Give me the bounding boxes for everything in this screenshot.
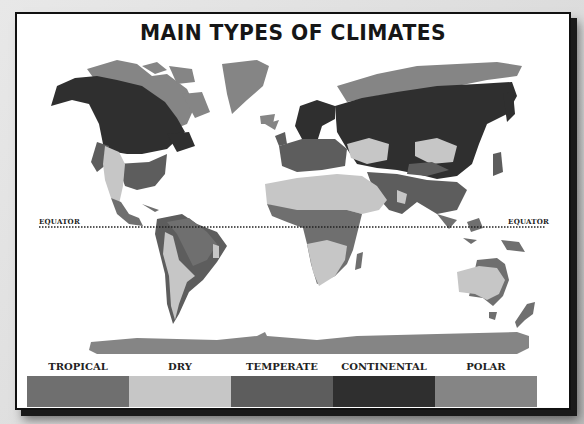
legend-swatch-tropical [27, 376, 129, 407]
legend-swatch-temperate [231, 376, 333, 407]
legend-label-continental: CONTINENTAL [333, 361, 435, 372]
climate-map-frame: MAIN TYPES OF CLIMATES [15, 12, 571, 410]
australia [457, 258, 535, 328]
legend-labels: TROPICAL DRY TEMPERATE CONTINENTAL POLAR [27, 361, 537, 372]
legend-swatch-polar [435, 376, 537, 407]
legend-label-tropical: TROPICAL [27, 361, 129, 372]
legend-label-temperate: TEMPERATE [231, 361, 333, 372]
legend-swatch-dry [129, 376, 231, 407]
south-america [155, 214, 227, 324]
world-climate-map [17, 14, 569, 408]
europe [265, 100, 347, 172]
legend-swatch-continental [333, 376, 435, 407]
africa [265, 174, 387, 286]
legend-swatches [27, 376, 537, 407]
legend-label-dry: DRY [129, 361, 231, 372]
antarctica [89, 332, 529, 354]
greenland [222, 60, 269, 114]
equator-label-left: EQUATOR [39, 217, 80, 226]
north-america [51, 60, 210, 226]
legend-label-polar: POLAR [435, 361, 537, 372]
equator-label-right: EQUATOR [508, 217, 549, 226]
